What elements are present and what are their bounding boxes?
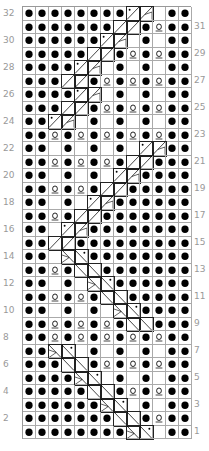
chart-cell xyxy=(75,21,88,35)
chart-cell xyxy=(88,331,101,345)
chart-cell xyxy=(114,169,127,183)
filled-dot-icon xyxy=(140,88,152,101)
chart-cell xyxy=(49,237,62,251)
chart-cell xyxy=(88,426,101,440)
chart-cell xyxy=(75,237,88,251)
chart-cell xyxy=(114,75,127,89)
filled-dot-icon xyxy=(166,291,178,304)
chart-cell xyxy=(127,237,140,251)
chart-cell xyxy=(166,426,179,440)
chart-cell xyxy=(140,75,153,89)
row-label-right: 25 xyxy=(194,102,205,112)
chart-cell xyxy=(179,129,192,143)
chart-cell xyxy=(23,75,36,89)
chart-cell xyxy=(179,385,192,399)
row-label-right: 27 xyxy=(194,75,205,85)
knitting-chart xyxy=(22,6,191,438)
backslash-with-dot-icon xyxy=(114,399,126,412)
chart-cell xyxy=(101,426,114,440)
filled-dot-icon xyxy=(166,237,178,250)
filled-dot-icon xyxy=(88,250,100,263)
filled-dot-icon xyxy=(153,169,165,182)
row-label-left: 20 xyxy=(3,170,14,180)
filled-dot-icon xyxy=(36,156,48,169)
slash-with-dot-icon xyxy=(127,7,139,20)
chart-cell xyxy=(23,331,36,345)
chart-cell xyxy=(75,115,88,129)
chart-cell xyxy=(166,48,179,62)
chart-cell xyxy=(88,183,101,197)
filled-dot-icon xyxy=(36,304,48,317)
filled-dot-icon xyxy=(140,385,152,398)
filled-dot-icon xyxy=(127,210,139,223)
chart-cell xyxy=(179,210,192,224)
row-label-left: 10 xyxy=(3,305,14,315)
filled-dot-icon xyxy=(114,237,126,250)
chart-cell xyxy=(166,345,179,359)
backslash-with-dot-icon xyxy=(75,250,87,263)
filled-dot-icon xyxy=(140,61,152,74)
yarn-over-underlined-icon xyxy=(127,129,139,142)
filled-dot-icon xyxy=(88,129,100,142)
filled-dot-icon xyxy=(179,291,191,304)
chart-cell xyxy=(49,183,62,197)
yarn-over-underlined-icon xyxy=(153,358,165,371)
chart-cell xyxy=(62,385,75,399)
backslash-with-triangle-icon xyxy=(101,399,113,412)
filled-dot-icon xyxy=(23,358,35,371)
chart-cell xyxy=(140,345,153,359)
chart-cell xyxy=(88,48,101,62)
chart-cell xyxy=(127,183,140,197)
chart-cell xyxy=(23,129,36,143)
chart-cell xyxy=(166,331,179,345)
chart-cell xyxy=(179,115,192,129)
chart-cell xyxy=(114,385,127,399)
chart-cell xyxy=(36,372,49,386)
chart-cell xyxy=(153,372,166,386)
chart-cell xyxy=(179,318,192,332)
chart-cell xyxy=(114,34,127,48)
chart-cell xyxy=(23,88,36,102)
filled-dot-icon xyxy=(23,372,35,385)
chart-cell xyxy=(23,372,36,386)
filled-dot-icon xyxy=(62,291,74,304)
backslash-with-dot-icon xyxy=(127,304,139,317)
chart-cell xyxy=(114,345,127,359)
filled-dot-icon xyxy=(101,426,113,439)
filled-dot-icon xyxy=(23,399,35,412)
chart-cell xyxy=(101,237,114,251)
chart-cell xyxy=(101,264,114,278)
chart-cell xyxy=(75,223,88,237)
filled-dot-icon xyxy=(36,183,48,196)
filled-dot-icon xyxy=(166,331,178,344)
filled-dot-icon xyxy=(140,345,152,358)
filled-dot-icon xyxy=(75,426,87,439)
chart-cell xyxy=(36,331,49,345)
chart-cell xyxy=(62,250,75,264)
chart-cell xyxy=(36,277,49,291)
filled-dot-icon xyxy=(114,61,126,74)
filled-dot-icon xyxy=(179,7,191,20)
chart-cell xyxy=(62,156,75,170)
filled-dot-icon xyxy=(36,223,48,236)
filled-dot-icon xyxy=(153,223,165,236)
chart-cell xyxy=(153,7,166,21)
chart-cell xyxy=(36,264,49,278)
filled-dot-icon xyxy=(166,412,178,425)
chart-cell xyxy=(36,196,49,210)
chart-cell xyxy=(62,48,75,62)
chart-cell xyxy=(75,385,88,399)
chart-cell xyxy=(179,196,192,210)
chart-cell xyxy=(75,102,88,116)
chart-cell xyxy=(23,304,36,318)
chart-cell xyxy=(166,156,179,170)
yarn-over-underlined-icon xyxy=(153,21,165,34)
filled-dot-icon xyxy=(49,426,61,439)
chart-cell xyxy=(114,412,127,426)
filled-dot-icon xyxy=(166,345,178,358)
chart-cell xyxy=(179,250,192,264)
filled-dot-icon xyxy=(62,264,74,277)
filled-dot-icon xyxy=(62,318,74,331)
chart-cell xyxy=(62,142,75,156)
chart-cell xyxy=(140,61,153,75)
